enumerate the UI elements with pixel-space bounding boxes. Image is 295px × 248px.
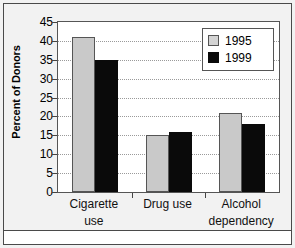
- bar-drug-use-1995: [146, 135, 169, 192]
- legend-label-1995: 1995: [225, 34, 252, 48]
- bar-alcohol-dependency-1999: [242, 124, 265, 192]
- x-axis-label-line: use: [53, 213, 135, 230]
- x-axis-label-drug-use: Drug use: [127, 196, 209, 213]
- legend-swatch-1999-icon: [208, 52, 219, 63]
- y-axis-tick-label: 0: [29, 185, 53, 199]
- bar-alcohol-dependency-1995: [219, 113, 242, 192]
- legend-swatch-1995-icon: [208, 35, 219, 46]
- bar-cigarette-use-1999: [95, 60, 118, 192]
- legend: 1995 1999: [202, 28, 274, 71]
- bar-cigarette-use-1995: [72, 37, 95, 192]
- y-axis-title: Percent of Donors: [10, 27, 22, 157]
- x-axis-label-cigarette-use: Cigaretteuse: [53, 196, 135, 230]
- y-axis-tick-label: 15: [29, 128, 53, 142]
- y-axis-tick-label: 30: [29, 72, 53, 86]
- x-axis-label-line: Alcohol: [200, 196, 282, 213]
- chart-figure: Percent of Donors 051015202530354045 Cig…: [0, 0, 295, 248]
- y-axis-tick-label: 45: [29, 15, 53, 29]
- legend-item-1999: 1999: [208, 49, 269, 66]
- y-axis-tick-label: 25: [29, 91, 53, 105]
- y-axis-tick-labels: 051015202530354045: [25, 21, 53, 193]
- x-axis-label-line: Cigarette: [53, 196, 135, 213]
- y-axis-tick-label: 40: [29, 34, 53, 48]
- x-axis-label-line: Drug use: [127, 196, 209, 213]
- figure-footer-strip: [4, 231, 291, 244]
- y-axis-tick-label: 20: [29, 109, 53, 123]
- y-axis-tick-label: 10: [29, 147, 53, 161]
- x-axis-label-alcohol-dependency: Alcoholdependency: [200, 196, 282, 230]
- legend-item-1995: 1995: [208, 32, 269, 49]
- y-axis-tick-label: 5: [29, 166, 53, 180]
- y-axis-tick-label: 35: [29, 53, 53, 67]
- legend-label-1999: 1999: [225, 51, 252, 65]
- chart-area: Percent of Donors 051015202530354045 Cig…: [3, 3, 292, 230]
- x-axis-label-line: dependency: [200, 213, 282, 230]
- x-axis-labels: CigaretteuseDrug useAlcoholdependency: [57, 196, 280, 232]
- bar-drug-use-1999: [169, 132, 192, 192]
